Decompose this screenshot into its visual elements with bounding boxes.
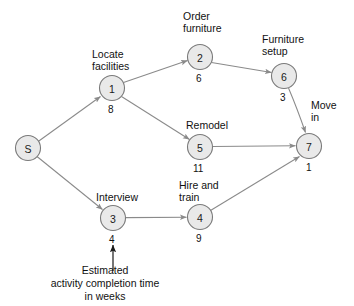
node-label-5: 5	[197, 142, 203, 154]
edge-6-to-7	[289, 88, 306, 133]
edge-5-to-7	[213, 146, 296, 147]
node-label-4: 4	[197, 212, 203, 224]
duration-label-node-1: 8	[108, 104, 114, 117]
activity-label-move-in-line1: Move	[311, 99, 337, 112]
activity-label-locate-facilities-line1: Locate	[92, 48, 124, 61]
edge-S-to-3	[37, 157, 103, 210]
duration-label-node-4: 9	[196, 233, 202, 246]
activity-label-interview: Interview	[96, 191, 138, 204]
activity-label-locate-facilities-line2: facilities	[92, 60, 129, 73]
activity-label-hire-and-train-line1: Hire and	[179, 179, 219, 192]
activity-label-order-furniture-line1: Order	[183, 10, 210, 23]
activity-label-remodel: Remodel	[186, 119, 228, 132]
node-label-2: 2	[197, 52, 203, 64]
network-graph-canvas: S 1 2 6 5 7 3 4	[0, 0, 354, 306]
duration-label-node-5: 11	[193, 163, 203, 176]
node-label-S: S	[24, 143, 31, 155]
caption-line-1: Estimated	[0, 264, 210, 277]
edge-1-to-2	[124, 61, 188, 83]
edge-2-to-6	[212, 63, 272, 73]
node-label-6: 6	[281, 71, 287, 83]
edge-1-to-5	[122, 97, 190, 140]
duration-label-node-6: 3	[280, 92, 286, 105]
node-label-7: 7	[306, 141, 312, 153]
duration-label-node-7: 1	[306, 162, 312, 175]
node-label-1: 1	[109, 83, 115, 95]
node-label-3: 3	[110, 213, 116, 225]
activity-label-furniture-setup-line1: Furniture	[262, 33, 304, 46]
caption-line-2: activity completion time	[0, 277, 210, 290]
activity-label-hire-and-train-line2: train	[179, 191, 199, 204]
activity-label-move-in-line2: in	[311, 111, 319, 124]
activity-label-order-furniture-line2: furniture	[183, 22, 222, 35]
duration-label-node-2: 6	[196, 73, 202, 86]
network-diagram: S 1 2 6 5 7 3 4 Locate facilities Order …	[0, 0, 354, 306]
edge-S-to-1	[39, 97, 101, 142]
duration-label-node-3: 4	[109, 234, 115, 247]
activity-label-furniture-setup-line2: setup	[262, 45, 288, 58]
edge-4-to-7	[211, 157, 300, 211]
caption-line-3: in weeks	[0, 290, 210, 303]
